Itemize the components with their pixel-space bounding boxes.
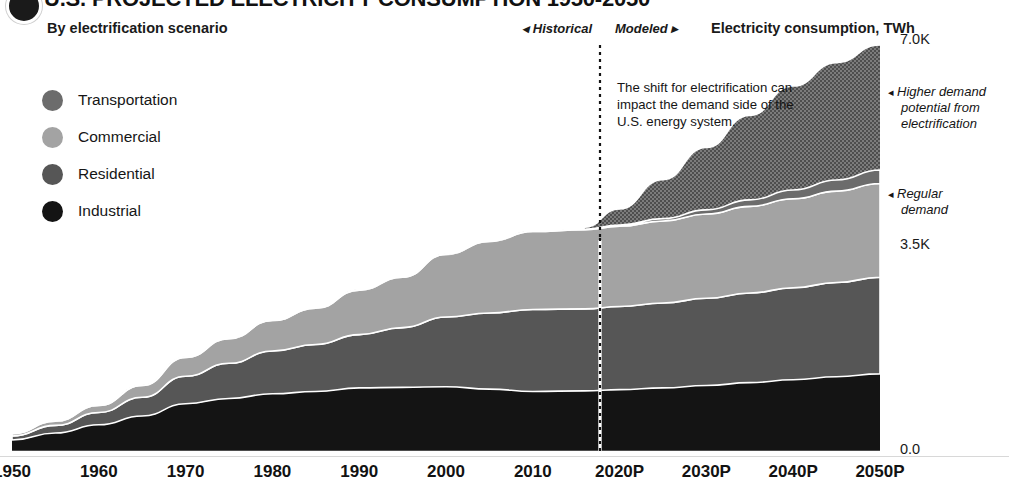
x-tick-3: 1980	[253, 462, 291, 482]
legend-item-residential[interactable]: Residential	[42, 158, 177, 190]
x-tick-7: 2020P	[595, 462, 644, 482]
x-tick-8: 2030P	[682, 462, 731, 482]
legend-label-commercial: Commercial	[78, 128, 161, 146]
chart-legend: Transportation Commercial Residential In…	[42, 84, 177, 232]
y-tick-0: 0.0	[900, 441, 920, 457]
x-tick-9: 2040P	[769, 462, 818, 482]
x-tick-2: 1970	[167, 462, 205, 482]
regular-demand-line-1: Regular	[897, 186, 943, 201]
y-tick-2: 7.0K	[900, 31, 930, 47]
chart-svg	[0, 0, 1009, 499]
x-tick-1: 1960	[80, 462, 118, 482]
regular-demand-line-2: demand	[888, 202, 998, 218]
higher-demand-line-1: Higher demand	[897, 84, 986, 99]
x-tick-0: 1950	[0, 462, 31, 482]
higher-demand-line-2: potential from	[888, 100, 1006, 116]
y-tick-1: 3.5K	[900, 236, 930, 252]
chart-page: U.S. PROJECTED ELECTRICITY CONSUMPTION 1…	[0, 0, 1009, 499]
regular-demand-arrow-icon: ◂	[888, 188, 894, 200]
higher-demand-annotation: ◂Higher demand potential from electrific…	[888, 84, 1006, 132]
higher-demand-line-3: electrification	[888, 116, 1006, 132]
x-tick-4: 1990	[340, 462, 378, 482]
legend-item-industrial[interactable]: Industrial	[42, 195, 177, 227]
chart-plot-area	[0, 0, 1009, 499]
legend-swatch-industrial	[42, 201, 63, 222]
legend-swatch-commercial	[42, 127, 63, 148]
legend-label-industrial: Industrial	[78, 202, 141, 220]
legend-swatch-residential	[42, 164, 63, 185]
higher-demand-arrow-icon: ◂	[888, 86, 894, 98]
legend-label-residential: Residential	[78, 165, 155, 183]
inline-annotation: The shift for electrification can impact…	[617, 80, 807, 131]
x-tick-6: 2010	[514, 462, 552, 482]
legend-item-commercial[interactable]: Commercial	[42, 121, 177, 153]
legend-item-transportation[interactable]: Transportation	[42, 84, 177, 116]
legend-swatch-transportation	[42, 90, 63, 111]
x-tick-10: 2050P	[855, 462, 904, 482]
axis-rule	[0, 456, 1009, 457]
legend-label-transportation: Transportation	[78, 91, 177, 109]
x-tick-5: 2000	[427, 462, 465, 482]
regular-demand-annotation: ◂Regular demand	[888, 186, 998, 218]
